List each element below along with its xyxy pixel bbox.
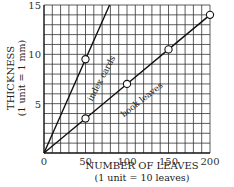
x-tick-label: 200	[200, 156, 219, 167]
x-tick-label: 0	[41, 156, 47, 167]
x-axis-label: NUMBER OF LEAVES	[85, 160, 198, 171]
data-point-marker	[82, 56, 89, 63]
y-tick-label: 15	[28, 0, 41, 11]
y-axis-unit: (1 unit = 1 mm)	[16, 40, 27, 117]
chart-grid	[44, 5, 210, 153]
y-tick-label: 5	[35, 99, 41, 110]
data-point-marker	[123, 80, 130, 87]
chart-svg: 05010015020051015 index cards book leave…	[0, 0, 234, 187]
data-point-marker	[165, 46, 172, 53]
y-tick-label: 10	[28, 49, 41, 60]
x-axis-unit: (1 unit = 10 leaves)	[95, 172, 190, 183]
data-point-marker	[206, 11, 213, 18]
y-axis-label: THICKNESS	[5, 46, 16, 110]
data-point-marker	[82, 115, 89, 122]
data-series	[44, 5, 214, 153]
